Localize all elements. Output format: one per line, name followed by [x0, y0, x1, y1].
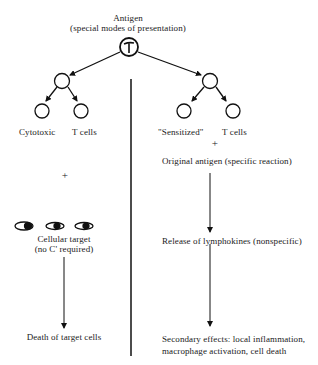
cellular-target-note: (no C' required) — [35, 244, 94, 254]
cytotoxic-label: Cytotoxic — [19, 127, 55, 137]
cellular-target-label: Cellular target — [37, 234, 90, 244]
cytotoxic-cell-b — [74, 104, 88, 118]
left-precursor-cell — [55, 74, 70, 89]
cellular-target-cells — [15, 222, 93, 230]
right-precursor-cell — [203, 74, 218, 89]
diagram-canvas — [0, 0, 318, 365]
sensitized-cell-b — [226, 104, 240, 118]
sensitized-cell-a — [177, 104, 191, 118]
left-outcome: Death of target cells — [27, 332, 102, 342]
cytotoxic-cell-a — [35, 104, 49, 118]
root-title: Antigen — [113, 13, 143, 23]
sensitized-label: "Sensitized" — [158, 127, 204, 137]
right-t-cells-label: T cells — [222, 127, 247, 137]
right-plus-sign: + — [212, 138, 218, 148]
left-t-cells-label: T cells — [72, 127, 97, 137]
right-outcome-line-1: Secondary effects: local inflammation, — [162, 334, 305, 344]
original-antigen-step: Original antigen (specific reaction) — [162, 156, 292, 166]
t-glyph-icon — [124, 43, 134, 53]
lymphokine-release-step: Release of lymphokines (nonspecific) — [162, 236, 302, 246]
root-subtitle: (special modes of presentation) — [70, 23, 186, 33]
right-outcome-line-2: macrophage activation, cell death — [162, 346, 286, 356]
left-plus-sign: + — [62, 170, 68, 180]
